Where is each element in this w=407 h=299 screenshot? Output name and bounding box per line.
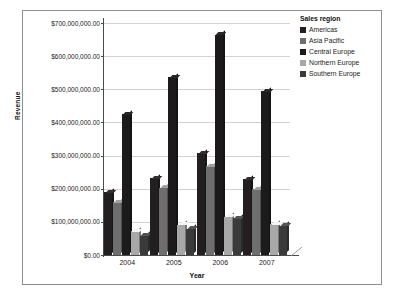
bar-face	[261, 91, 269, 255]
bar-group-2004	[104, 23, 151, 255]
legend-item-northern-europe[interactable]: Northern Europe	[300, 58, 382, 68]
bar-group-2005	[151, 23, 198, 255]
bar-face	[252, 189, 260, 255]
bar-americas-2005[interactable]	[150, 178, 158, 255]
bar-chart-figure: Revenue $700,000,000.00$600,000,000.00$5…	[0, 0, 407, 299]
bar-asia-pacific-2005[interactable]	[159, 188, 167, 255]
bar-side-face	[287, 221, 289, 252]
y-axis-tick-label: $200,000,000.00	[51, 185, 100, 192]
legend-item-label: Northern Europe	[309, 59, 359, 67]
legend-swatch-icon	[300, 71, 306, 77]
bar-northern-europe-2004[interactable]	[131, 231, 139, 255]
bar-face	[224, 217, 232, 255]
bar-northern-europe-2007[interactable]	[270, 224, 278, 255]
y-axis-tick-label: $500,000,000.00	[51, 86, 100, 93]
y-axis-title: Revenue	[14, 92, 21, 121]
plot-area	[104, 20, 290, 256]
y-axis-tick-label: $0.00	[84, 252, 100, 259]
legend-item-asia-pacific[interactable]: Asia Pacific	[300, 36, 382, 46]
bar-face	[279, 226, 287, 255]
bar-top-face	[152, 176, 162, 179]
bar-face	[159, 188, 167, 255]
y-axis-tick-mark	[101, 156, 104, 157]
bar-group-2007	[244, 23, 291, 255]
bar-central-europe-2005[interactable]	[168, 77, 176, 255]
bar-southern-europe-2006[interactable]	[233, 218, 241, 255]
bar-americas-2006[interactable]	[197, 153, 205, 255]
legend-item-label: Southern Europe	[309, 70, 360, 78]
legend-swatch-icon	[300, 27, 306, 33]
y-axis-tick-mark	[101, 222, 104, 223]
bar-northern-europe-2006[interactable]	[224, 217, 232, 255]
bar-face	[215, 35, 223, 255]
legend-item-label: Americas	[309, 26, 337, 34]
bar-americas-2004[interactable]	[104, 192, 112, 255]
bar-face	[113, 202, 121, 255]
bar-face	[186, 229, 194, 256]
x-axis-tick-labels: 2004200520062007	[104, 259, 299, 271]
y-axis-tick-label: $600,000,000.00	[51, 53, 100, 60]
bar-face	[243, 179, 251, 255]
bar-group-2006	[197, 23, 244, 255]
y-axis-tick-mark	[101, 122, 104, 123]
x-axis-tick-label-2007: 2007	[244, 259, 291, 266]
bar-face	[104, 192, 112, 255]
bar-top-face	[106, 190, 116, 193]
x-axis-tick-label-2006: 2006	[197, 259, 244, 266]
y-axis-tick-mark	[101, 23, 104, 24]
y-axis-tick-mark	[101, 189, 104, 190]
legend-swatch-icon	[300, 38, 306, 44]
bar-asia-pacific-2007[interactable]	[252, 189, 260, 255]
y-axis-tick-mark	[101, 89, 104, 90]
bar-asia-pacific-2004[interactable]	[113, 202, 121, 255]
axis-depth-indicator	[291, 247, 303, 257]
bar-top-face	[170, 75, 180, 78]
bar-top-face	[179, 222, 189, 225]
x-axis-tick-label-2004: 2004	[104, 259, 151, 266]
bar-side-face	[241, 214, 243, 253]
bar-americas-2007[interactable]	[243, 179, 251, 255]
bar-top-face	[199, 151, 209, 154]
legend-item-label: Asia Pacific	[309, 37, 344, 45]
bar-face	[233, 218, 241, 255]
legend-item-americas[interactable]: Americas	[300, 25, 382, 35]
bar-top-face	[263, 89, 273, 92]
y-axis-tick-labels: $700,000,000.00$600,000,000.00$500,000,0…	[26, 0, 100, 275]
bar-northern-europe-2005[interactable]	[177, 225, 185, 255]
bar-face	[140, 236, 148, 255]
bar-face	[270, 224, 278, 255]
bar-central-europe-2004[interactable]	[122, 114, 130, 255]
bar-southern-europe-2005[interactable]	[186, 229, 194, 256]
legend-title: Sales region	[300, 15, 382, 22]
y-axis-tick-label: $300,000,000.00	[51, 152, 100, 159]
bar-face	[131, 231, 139, 255]
bar-face	[177, 225, 185, 255]
bar-top-face	[245, 177, 255, 180]
y-axis-tick-label: $400,000,000.00	[51, 119, 100, 126]
legend: Sales region AmericasAsia PacificCentral…	[300, 15, 382, 80]
bar-southern-europe-2004[interactable]	[140, 236, 148, 255]
bar-southern-europe-2007[interactable]	[279, 226, 287, 255]
y-axis-tick-label: $700,000,000.00	[51, 20, 100, 27]
bar-face	[150, 178, 158, 255]
legend-item-central-europe[interactable]: Central Europe	[300, 47, 382, 57]
bar-face	[168, 77, 176, 255]
legend-swatch-icon	[300, 60, 306, 66]
y-axis-tick-mark	[101, 255, 104, 256]
legend-item-southern-europe[interactable]: Southern Europe	[300, 69, 382, 79]
bar-face	[197, 153, 205, 255]
bar-top-face	[272, 222, 282, 225]
plot-inner	[104, 23, 290, 255]
bar-central-europe-2007[interactable]	[261, 91, 269, 255]
x-axis-tick-label-2005: 2005	[151, 259, 198, 266]
x-axis-title: Year	[104, 272, 290, 279]
legend-item-label: Central Europe	[309, 48, 355, 56]
y-axis-tick-label: $100,000,000.00	[51, 218, 100, 225]
bar-asia-pacific-2006[interactable]	[206, 166, 214, 255]
x-axis-line	[103, 255, 299, 256]
legend-swatch-icon	[300, 49, 306, 55]
bar-central-europe-2006[interactable]	[215, 35, 223, 255]
bar-face	[122, 114, 130, 255]
y-axis-tick-mark	[101, 56, 104, 57]
legend-items: AmericasAsia PacificCentral EuropeNorthe…	[300, 25, 382, 79]
